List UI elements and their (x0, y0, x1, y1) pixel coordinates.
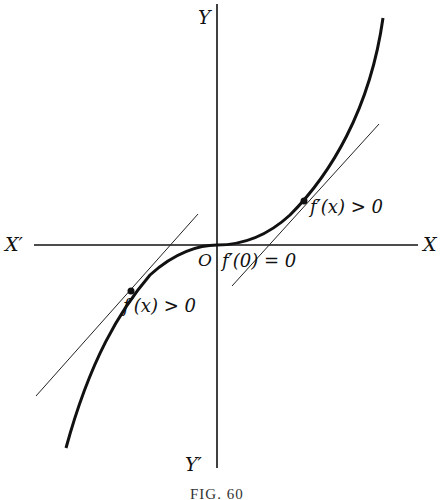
y-axis-positive-label: Y (198, 8, 211, 27)
function-curve (66, 18, 383, 448)
y-axis-negative-label: Y′ (185, 455, 202, 474)
annotation-origin: f′(0) = 0 (222, 252, 296, 270)
x-axis-positive-label: X (423, 235, 437, 254)
x-axis-negative-label: X′ (5, 235, 23, 254)
figure-caption: FIG. 60 (190, 486, 244, 500)
tangent-point-right (301, 198, 308, 205)
origin-label: O (198, 252, 212, 269)
tangent-point-left (128, 288, 135, 295)
annotation-left-point: f′(x) > 0 (123, 297, 196, 315)
annotation-right-point: f′(x) > 0 (310, 198, 383, 216)
